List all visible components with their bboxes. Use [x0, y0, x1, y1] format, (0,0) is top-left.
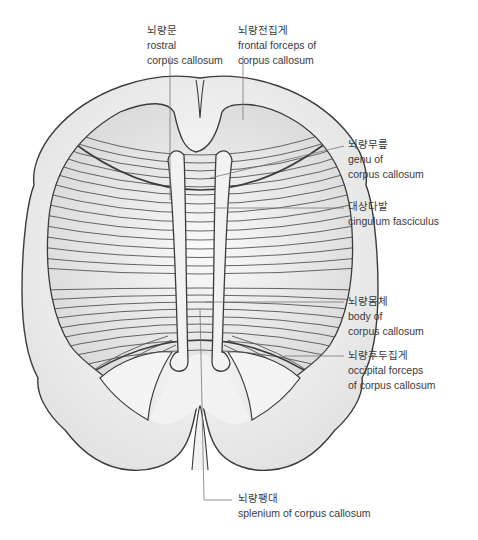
- label-splenium: 뇌량팽대 splenium of corpus callosum: [238, 491, 370, 521]
- label-frontal-forceps: 뇌량전집게 frontal forceps of corpus callosum: [238, 23, 316, 68]
- corpus-callosum-illustration: [0, 0, 478, 540]
- label-rostral: 뇌량문 rostral corpus callosum: [147, 23, 223, 68]
- label-cingulum: 대상다발 cingulum fasciculus: [348, 199, 439, 229]
- label-genu: 뇌량무릎 genu of corpus callosum: [348, 137, 424, 182]
- label-occipital-forceps: 뇌량후두집게 occipital forceps of corpus callo…: [348, 348, 436, 393]
- label-body: 뇌량몸체 body of corpus callosum: [348, 294, 424, 339]
